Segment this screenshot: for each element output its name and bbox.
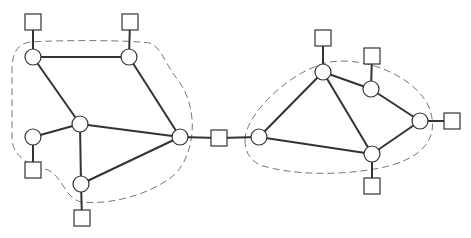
link-C-E (80, 124, 81, 184)
router-node-G (251, 129, 267, 145)
host-square-icon (122, 14, 138, 30)
router-node-E (73, 176, 89, 192)
router-node-A (25, 49, 41, 65)
network-diagram (0, 0, 471, 238)
link-G-K (259, 137, 372, 154)
host-square-icon (25, 162, 41, 178)
link-A-C (33, 57, 80, 124)
host-square-icon (211, 130, 227, 146)
host-square-icon (364, 48, 380, 64)
host-connections (33, 22, 452, 218)
link-E-F (81, 137, 180, 184)
router-node-B (121, 49, 137, 65)
router-node-K (364, 146, 380, 162)
host-square-icon (74, 210, 90, 226)
router-node-C (72, 116, 88, 132)
host-square-icon (25, 14, 41, 30)
routers (25, 49, 428, 192)
host-square-icon (364, 178, 380, 194)
link-C-F (80, 124, 180, 137)
host-square-icon (444, 113, 460, 129)
hosts (25, 14, 460, 226)
link-G-H (259, 72, 323, 137)
router-node-H (315, 64, 331, 80)
router-node-D (25, 129, 41, 145)
router-links (33, 57, 420, 184)
link-B-F (129, 57, 180, 137)
host-square-icon (315, 30, 331, 46)
link-J-K (372, 121, 420, 154)
router-node-I (363, 81, 379, 97)
router-node-J (412, 113, 428, 129)
router-node-F (172, 129, 188, 145)
link-I-J (371, 89, 420, 121)
